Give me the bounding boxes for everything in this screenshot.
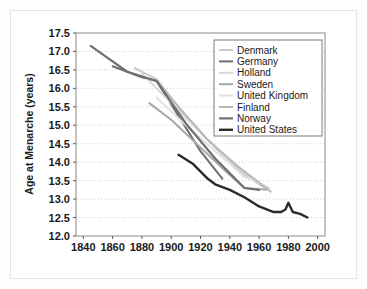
y-tick-label-3: 13.5 [49, 175, 70, 187]
y-tick-label-10: 17.0 [49, 45, 70, 57]
x-tick-label-3: 1900 [159, 241, 183, 253]
x-tick-label-1: 1860 [100, 241, 124, 253]
y-tick-label-9: 16.5 [49, 64, 70, 76]
legend-label-denmark: Denmark [237, 45, 279, 56]
y-axis-title: Age at Menarche (years) [23, 73, 35, 194]
x-tick-label-6: 1960 [247, 241, 271, 253]
y-tick-label-4: 14.0 [49, 156, 70, 168]
legend-label-holland: Holland [237, 67, 271, 78]
x-tick-label-0: 1840 [71, 241, 95, 253]
plot-wrapper: 12.012.513.013.514.014.515.015.516.016.5… [0, 0, 367, 289]
y-tick-label-11: 17.5 [49, 27, 70, 39]
legend-label-norway: Norway [237, 113, 271, 124]
line-chart: 12.012.513.013.514.014.515.015.516.016.5… [0, 0, 367, 289]
x-tick-label-8: 2000 [305, 241, 329, 253]
y-tick-label-2: 13.0 [49, 193, 70, 205]
y-tick-label-5: 14.5 [49, 138, 70, 150]
y-tick-label-1: 12.5 [49, 212, 70, 224]
chart-figure: 12.012.513.013.514.014.515.015.516.016.5… [0, 0, 367, 289]
y-tick-label-0: 12.0 [49, 230, 70, 242]
legend-label-finland: Finland [237, 102, 270, 113]
x-axis-tick-labels: 184018601880190019201940196019802000 [71, 241, 330, 253]
y-tick-label-6: 15.0 [49, 119, 70, 131]
x-tick-label-5: 1940 [218, 241, 242, 253]
y-tick-label-8: 16.0 [49, 82, 70, 94]
x-tick-label-7: 1980 [276, 241, 300, 253]
legend-label-germany: Germany [237, 56, 278, 67]
legend-label-sweden: Sweden [237, 79, 273, 90]
x-tick-label-4: 1920 [188, 241, 212, 253]
chart-legend: DenmarkGermanyHollandSwedenUnited Kingdo… [214, 40, 322, 136]
y-axis-tick-labels: 12.012.513.013.514.014.515.015.516.016.5… [49, 27, 70, 242]
y-tick-label-7: 15.5 [49, 101, 70, 113]
x-tick-label-2: 1880 [130, 241, 154, 253]
legend-label-united-states: United States [237, 124, 297, 135]
legend-label-united-kingdom: United Kingdom [237, 90, 308, 101]
